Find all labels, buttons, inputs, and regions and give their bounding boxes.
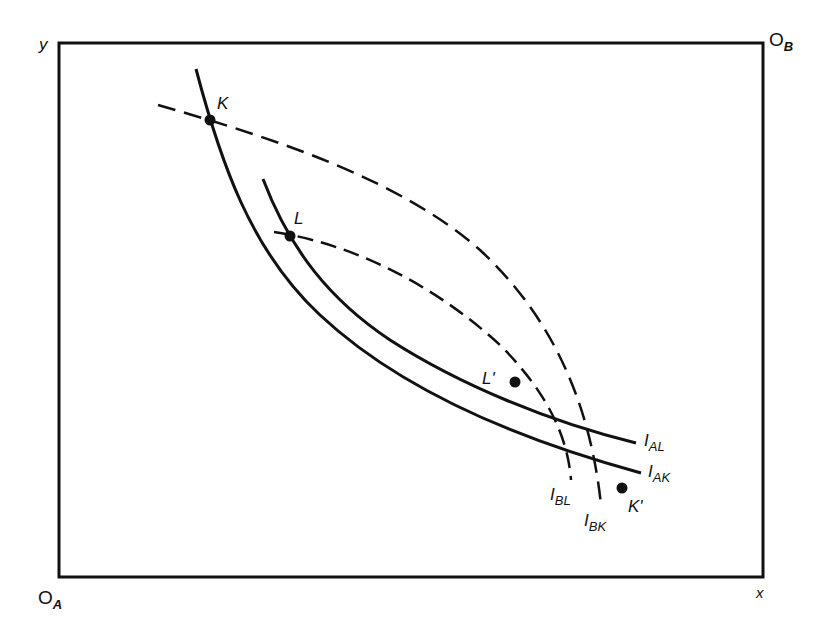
curve-i-ak-sub: AK — [653, 470, 670, 485]
x-axis-label: x — [756, 585, 764, 600]
point-l-prime-marker — [510, 377, 521, 388]
point-k-marker — [205, 115, 216, 126]
curve-i-bl-label: IBL — [550, 486, 571, 507]
origin-b-sub: B — [784, 39, 793, 54]
y-axis-label: y — [39, 36, 48, 53]
origin-a-label: OA — [38, 588, 62, 611]
edgeworth-box-frame — [59, 43, 763, 577]
point-k-label: K — [217, 95, 228, 112]
point-l-prime-label: L' — [482, 370, 495, 387]
indifference-curve-i-bl — [274, 232, 571, 480]
curve-i-al-sub: AL — [649, 439, 665, 454]
curve-i-ak-label: IAK — [648, 463, 670, 484]
origin-b-label: OB — [769, 30, 793, 53]
origin-a-sub: A — [53, 597, 62, 612]
point-l-label: L — [294, 210, 303, 227]
indifference-curve-i-ak — [196, 69, 641, 473]
curve-i-bk-label: IBK — [584, 512, 606, 533]
edgeworth-box-diagram — [0, 0, 840, 633]
origin-b-main: O — [769, 29, 784, 50]
origin-a-main: O — [38, 587, 53, 608]
point-k-prime-marker — [617, 483, 628, 494]
point-k-prime-label: K' — [628, 498, 643, 515]
curve-i-al-label: IAL — [644, 432, 665, 453]
point-l-marker — [285, 231, 296, 242]
curve-i-bl-sub: BL — [555, 493, 571, 508]
curve-i-bk-sub: BK — [589, 519, 606, 534]
